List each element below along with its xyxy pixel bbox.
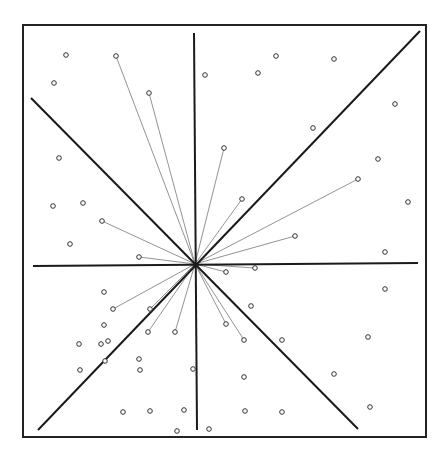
connected-point	[173, 330, 178, 335]
isolated-point	[393, 102, 398, 107]
isolated-point	[99, 342, 104, 347]
isolated-point	[366, 335, 371, 340]
isolated-point	[256, 71, 261, 76]
isolated-point	[203, 73, 208, 78]
connected-point	[146, 330, 151, 335]
ray-line	[195, 148, 224, 264]
data-points	[51, 53, 411, 434]
ray-line	[195, 179, 358, 264]
connected-point	[242, 338, 247, 343]
diagonal-ne	[38, 31, 420, 430]
isolated-point	[138, 368, 143, 373]
ray-lines	[102, 56, 358, 340]
axis-lines	[31, 31, 420, 430]
isolated-point	[249, 304, 254, 309]
isolated-point	[106, 339, 111, 344]
connected-point	[224, 270, 229, 275]
connected-point	[222, 146, 227, 151]
isolated-point	[121, 410, 126, 415]
isolated-point	[368, 405, 373, 410]
isolated-point	[68, 242, 73, 247]
isolated-point	[137, 357, 142, 362]
connected-point	[356, 177, 361, 182]
isolated-point	[243, 409, 248, 414]
connected-point	[293, 234, 298, 239]
isolated-point	[311, 126, 316, 131]
isolated-point	[191, 367, 196, 372]
isolated-point	[383, 287, 388, 292]
isolated-point	[182, 408, 187, 413]
isolated-point	[51, 204, 56, 209]
connected-point	[137, 255, 142, 260]
isolated-point	[102, 323, 107, 328]
horizontal-axis	[33, 263, 418, 266]
isolated-point	[280, 410, 285, 415]
isolated-point	[274, 54, 279, 59]
ray-line	[113, 264, 195, 309]
isolated-point	[103, 359, 108, 364]
isolated-point	[280, 338, 285, 343]
isolated-point	[57, 156, 62, 161]
isolated-point	[406, 200, 411, 205]
isolated-point	[102, 290, 107, 295]
connected-point	[224, 322, 229, 327]
connected-point	[253, 266, 258, 271]
isolated-point	[332, 372, 337, 377]
connected-point	[100, 219, 105, 224]
isolated-point	[64, 53, 69, 58]
isolated-point	[242, 375, 247, 380]
connected-point	[148, 307, 153, 312]
ray-line	[195, 264, 244, 340]
isolated-point	[77, 342, 82, 347]
connected-point	[147, 91, 152, 96]
connected-point	[111, 307, 116, 312]
isolated-point	[81, 201, 86, 206]
ray-line	[149, 93, 195, 264]
isolated-point	[78, 368, 83, 373]
connected-point	[114, 54, 119, 59]
isolated-point	[175, 429, 180, 434]
ray-line	[195, 199, 242, 264]
isolated-point	[376, 157, 381, 162]
ray-line	[195, 264, 226, 324]
isolated-point	[383, 250, 388, 255]
isolated-point	[332, 57, 337, 62]
connected-point	[240, 197, 245, 202]
radial-diagram	[0, 0, 447, 459]
isolated-point	[148, 409, 153, 414]
isolated-point	[207, 427, 212, 432]
isolated-point	[52, 81, 57, 86]
